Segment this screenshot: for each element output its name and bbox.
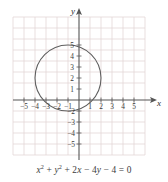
x-tick-label: −2: [53, 102, 61, 111]
y-tick-label: 2: [70, 74, 74, 83]
x-tick-label: 3: [110, 102, 114, 111]
equation-minus-four: − 4: [82, 165, 97, 175]
equation-plus-one: +: [44, 165, 54, 175]
x-tick-label: −4: [31, 102, 39, 111]
y-tick-label: −4: [67, 129, 75, 138]
y-axis-label: y: [70, 6, 75, 16]
coordinate-plane: −5 −4 −3 −2 −1 1 2 3 4 5 5 4 3 2 1 −2 −3…: [0, 0, 168, 182]
y-tick-label: 3: [70, 63, 74, 72]
equation-caption: x2 + y2 + 2x − 4y − 4 = 0: [0, 165, 168, 175]
x-tick-label: −5: [20, 102, 28, 111]
y-tick-label: −5: [67, 140, 75, 149]
y-tick-label: −2: [67, 107, 75, 116]
equation-tail: − 4 = 0: [101, 165, 132, 175]
x-axis-label: x: [156, 98, 161, 108]
y-tick-label: 1: [70, 85, 74, 94]
y-tick-label: −3: [67, 118, 75, 127]
x-tick-label: 5: [132, 102, 136, 111]
x-tick-label: 1: [88, 102, 92, 111]
y-tick-label: 5: [70, 41, 74, 50]
y-axis: [76, 8, 82, 160]
y-tick-label: 4: [70, 52, 74, 61]
x-tick-label: 4: [121, 102, 125, 111]
x-tick-label: −3: [42, 102, 50, 111]
equation-plus-two: + 2: [62, 165, 77, 175]
graph-figure: −5 −4 −3 −2 −1 1 2 3 4 5 5 4 3 2 1 −2 −3…: [0, 0, 168, 182]
x-tick-label: 2: [99, 102, 103, 111]
